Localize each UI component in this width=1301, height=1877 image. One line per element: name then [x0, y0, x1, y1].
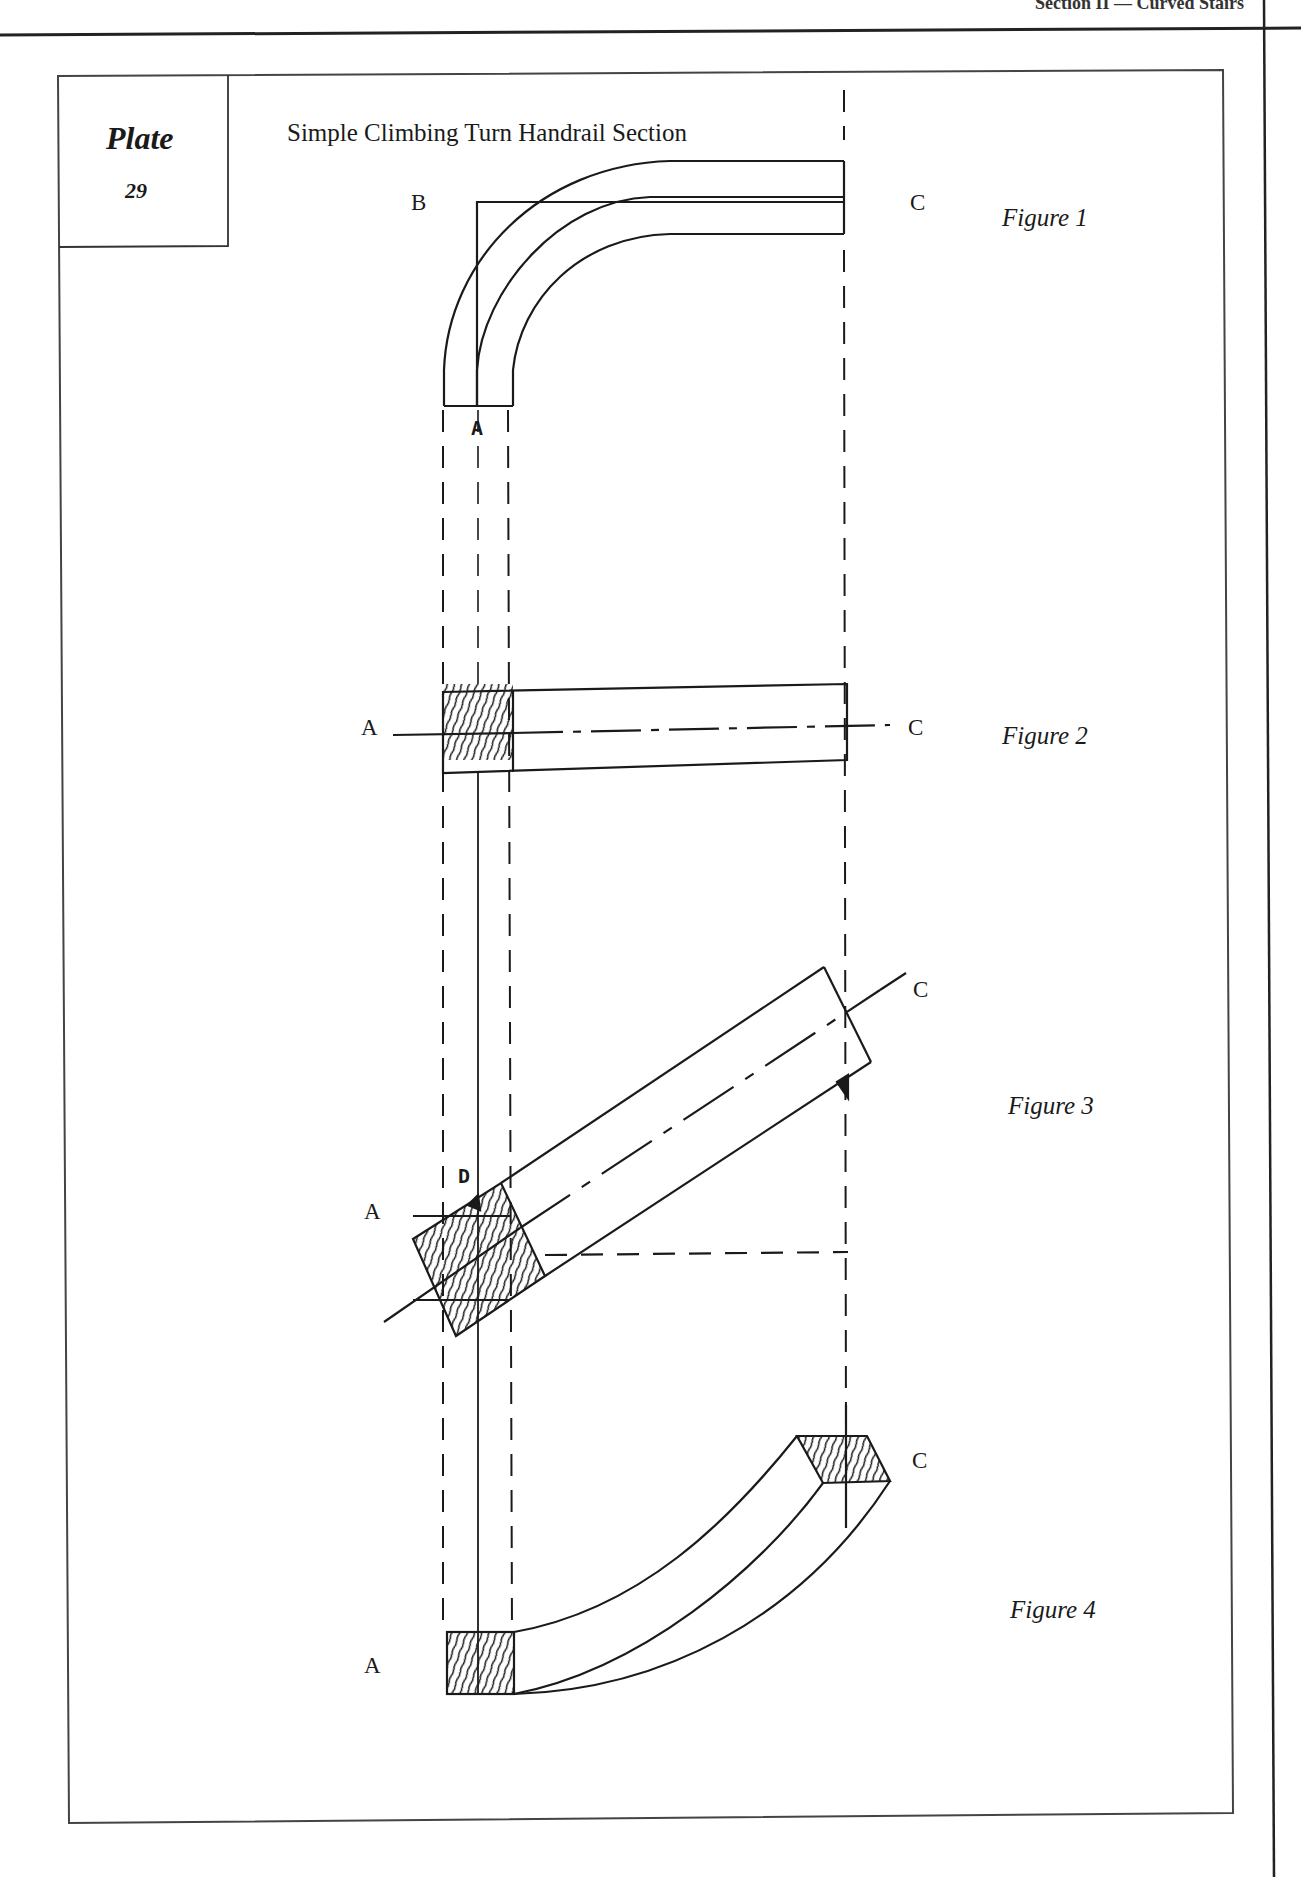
projection-lines	[443, 90, 846, 1632]
figure-3-caption: Figure 3	[1008, 1093, 1094, 1118]
figure-4-point-c: C	[912, 1449, 927, 1472]
page-edge-line	[1264, 0, 1274, 1877]
figure-3-point-d: D	[458, 1166, 470, 1186]
figure-3-point-a: A	[364, 1200, 381, 1223]
header-rule	[0, 28, 1301, 35]
figure-2-point-c: C	[908, 716, 923, 739]
figure-1-point-b: B	[411, 191, 426, 214]
figure-4-drawing	[447, 1405, 890, 1694]
figure-4-caption: Figure 4	[1010, 1597, 1096, 1622]
figure-3-point-c: C	[913, 978, 928, 1001]
figure-1-drawing	[444, 161, 844, 406]
plate-number-box	[59, 75, 228, 247]
plate-drawing	[0, 0, 1301, 1877]
figure-4-point-a: A	[364, 1654, 381, 1677]
figure-3-drawing	[384, 967, 906, 1336]
plate-title: Simple Climbing Turn Handrail Section	[287, 120, 687, 145]
figure-1-point-a: A	[471, 418, 483, 438]
plate-frame	[58, 70, 1233, 1823]
figure-2-caption: Figure 2	[1002, 723, 1088, 748]
running-head: Section II — Curved Stairs	[1035, 0, 1244, 12]
figure-1-point-c: C	[910, 191, 925, 214]
figure-2-drawing	[393, 684, 890, 773]
plate-number: 29	[125, 180, 147, 202]
plate-label: Plate	[106, 122, 174, 154]
figure-2-point-a: A	[361, 716, 378, 739]
figure-1-caption: Figure 1	[1002, 205, 1088, 230]
